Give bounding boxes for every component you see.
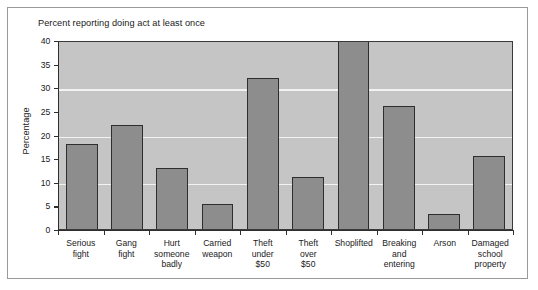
x-axis-label-line: $50 [287, 259, 331, 270]
bar-slot [331, 42, 376, 229]
x-tick [468, 230, 469, 235]
x-axis-label-line: Theft [241, 238, 285, 249]
x-tick [240, 230, 241, 235]
y-tick-label: 10 [28, 178, 50, 188]
x-axis-label-line: Breaking [378, 238, 422, 249]
x-axis-label-line: over [287, 249, 331, 260]
x-tick [513, 230, 514, 235]
bar-series [59, 42, 512, 229]
y-tick-25 [54, 112, 59, 113]
y-axis: 0510152025303540 [58, 41, 59, 230]
bar[interactable] [111, 125, 143, 229]
bar-slot [376, 42, 421, 229]
bar-slot [150, 42, 195, 229]
y-tick-label: 30 [28, 83, 50, 93]
y-tick-20 [54, 136, 59, 137]
y-tick-30 [54, 88, 59, 89]
x-tick [58, 230, 59, 235]
x-tick [377, 230, 378, 235]
x-axis-labels: SeriousfightGangfightHurtsomeonebadlyCar… [58, 238, 513, 270]
y-tick-label: 35 [28, 60, 50, 70]
x-axis-label-line: school [469, 249, 513, 260]
x-axis-label-line: and [378, 249, 422, 260]
x-axis-label: Hurtsomeonebadly [149, 238, 195, 270]
x-axis-label: Carriedweapon [195, 238, 241, 270]
y-tick-label: 25 [28, 107, 50, 117]
y-tick-label: 20 [28, 131, 50, 141]
x-tick [331, 230, 332, 235]
x-axis-label-line: fight [105, 249, 149, 260]
x-axis-label: Damagedschoolproperty [468, 238, 514, 270]
bar-slot [195, 42, 240, 229]
x-axis-label-line: Gang [105, 238, 149, 249]
x-axis-label: Theftover$50 [286, 238, 332, 270]
y-tick-15 [54, 159, 59, 160]
bar-slot [240, 42, 285, 229]
bar[interactable] [338, 41, 370, 229]
bar[interactable] [428, 214, 460, 229]
bar-slot [467, 42, 512, 229]
bar-slot [285, 42, 330, 229]
bar[interactable] [156, 168, 188, 229]
x-axis-label-line: weapon [196, 249, 240, 260]
x-axis-label: Gangfight [104, 238, 150, 270]
bar[interactable] [473, 156, 505, 229]
x-axis-label: Arson [422, 238, 468, 270]
x-tick [195, 230, 196, 235]
x-axis-label-line: Hurt [150, 238, 194, 249]
y-tick-label: 5 [28, 201, 50, 211]
bar-slot [421, 42, 466, 229]
y-tick-label: 0 [28, 225, 50, 235]
x-tick [286, 230, 287, 235]
x-tick [149, 230, 150, 235]
x-axis-label-line: badly [150, 259, 194, 270]
bar-slot [104, 42, 149, 229]
x-axis-label-line: property [469, 259, 513, 270]
x-axis-label: Shoplifted [331, 238, 377, 270]
x-axis-label-line: Shoplifted [332, 238, 376, 249]
y-tick-label: 40 [28, 36, 50, 46]
plot-area [58, 41, 513, 230]
x-tick [104, 230, 105, 235]
bar[interactable] [383, 106, 415, 229]
y-tick-5 [54, 206, 59, 207]
x-axis-label: Theftunder$50 [240, 238, 286, 270]
bar-slot [59, 42, 104, 229]
y-tick-40 [54, 41, 59, 42]
x-axis-label-line: fight [59, 249, 103, 260]
x-axis-label-line: under [241, 249, 285, 260]
bar[interactable] [202, 204, 234, 229]
bar[interactable] [247, 78, 279, 229]
x-axis-label-line: Theft [287, 238, 331, 249]
x-axis-label: Breakingandentering [377, 238, 423, 270]
y-tick-35 [54, 65, 59, 66]
x-axis-label-line: entering [378, 259, 422, 270]
bar[interactable] [292, 177, 324, 229]
y-tick-10 [54, 183, 59, 184]
x-axis-label-line: Arson [423, 238, 467, 249]
x-tick [422, 230, 423, 235]
chart-title: Percent reporting doing act at least onc… [38, 18, 205, 28]
x-axis-label-line: Serious [59, 238, 103, 249]
x-axis-label: Seriousfight [58, 238, 104, 270]
x-axis-label-line: someone [150, 249, 194, 260]
chart-figure-frame: Percent reporting doing act at least onc… [7, 7, 528, 279]
x-axis-label-line: Carried [196, 238, 240, 249]
x-axis-label-line: Damaged [469, 238, 513, 249]
x-axis-label-line: $50 [241, 259, 285, 270]
bar[interactable] [66, 144, 98, 229]
y-tick-label: 15 [28, 154, 50, 164]
x-axis-ticks [58, 230, 513, 235]
